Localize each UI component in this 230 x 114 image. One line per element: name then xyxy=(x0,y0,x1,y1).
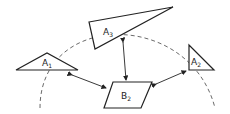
shape-a3: A3 xyxy=(89,7,173,49)
shape-a1: A1 xyxy=(16,53,78,70)
arrow-b2-a2 xyxy=(156,71,186,84)
shape-b2: B2 xyxy=(104,82,152,108)
diagram-canvas: A3 A1 A2 B2 xyxy=(0,0,230,114)
shape-a2: A2 xyxy=(189,45,214,70)
arrow-b2-a3 xyxy=(123,42,126,80)
arrow-b2-a1 xyxy=(72,75,106,88)
